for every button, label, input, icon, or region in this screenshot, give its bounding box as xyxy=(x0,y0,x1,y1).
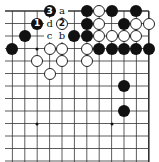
black-stone-move-1: 1 xyxy=(31,18,43,30)
black-stone xyxy=(106,43,118,55)
white-stone xyxy=(130,30,142,42)
black-stone xyxy=(106,5,118,17)
white-stone xyxy=(143,18,155,30)
black-stone xyxy=(68,30,80,42)
white-stone xyxy=(44,68,56,80)
white-stone xyxy=(93,18,105,30)
black-stone xyxy=(81,5,93,17)
white-stone xyxy=(56,55,68,67)
black-stone xyxy=(81,30,93,42)
black-stone xyxy=(143,43,155,55)
point-label-a: a xyxy=(56,5,68,17)
black-stone xyxy=(118,18,130,30)
white-stone xyxy=(81,43,93,55)
black-stone xyxy=(130,5,142,17)
black-stone xyxy=(6,43,18,55)
white-stone xyxy=(56,43,68,55)
white-stone xyxy=(118,30,130,42)
black-stone xyxy=(118,43,130,55)
white-stone xyxy=(130,18,142,30)
hoshi-point xyxy=(110,122,113,125)
white-stone xyxy=(44,43,56,55)
black-stone xyxy=(93,43,105,55)
go-board-diagram: abcd312 xyxy=(0,0,159,162)
white-stone-move-2: 2 xyxy=(56,18,68,30)
black-stone xyxy=(81,18,93,30)
point-label-c: c xyxy=(44,30,56,42)
point-label-d: d xyxy=(44,18,56,30)
white-stone xyxy=(31,55,43,67)
white-stone xyxy=(93,30,105,42)
black-stone-move-3: 3 xyxy=(44,5,56,17)
black-stone xyxy=(118,80,130,92)
black-stone xyxy=(19,30,31,42)
black-stone xyxy=(118,105,130,117)
black-stone xyxy=(130,43,142,55)
point-label-b: b xyxy=(56,30,68,42)
hoshi-point xyxy=(36,47,39,50)
white-stone xyxy=(106,30,118,42)
white-stone xyxy=(93,5,105,17)
white-stone xyxy=(81,55,93,67)
hoshi-point xyxy=(36,122,39,125)
